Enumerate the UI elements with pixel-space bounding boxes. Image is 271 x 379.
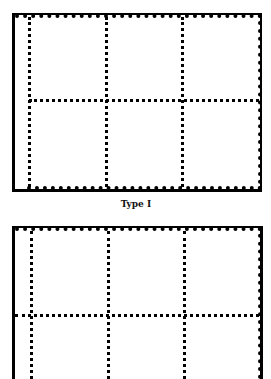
type-1-vertical-divider-1 bbox=[28, 17, 31, 187]
type-2-horizontal-divider bbox=[15, 314, 259, 317]
type-2-top-border-scallop bbox=[15, 227, 262, 231]
type-1-vertical-divider-2 bbox=[105, 17, 108, 187]
type-1-vertical-divider-3 bbox=[181, 17, 184, 187]
type-2-vertical-divider-2 bbox=[107, 231, 110, 379]
type-2-left-border bbox=[12, 226, 15, 379]
type-2-right-border-solid bbox=[260, 226, 263, 379]
type-1-left-border bbox=[12, 13, 15, 192]
type-1-right-border-solid bbox=[260, 13, 262, 192]
type-2-vertical-divider-3 bbox=[183, 231, 186, 379]
type-1-horizontal-divider bbox=[29, 99, 259, 102]
type-1-bottom-border-scallop bbox=[27, 186, 262, 190]
type-1-caption: Type I bbox=[96, 199, 176, 209]
type-2-vertical-divider-1 bbox=[30, 231, 33, 379]
type-1-top-border-scallop bbox=[15, 14, 262, 18]
